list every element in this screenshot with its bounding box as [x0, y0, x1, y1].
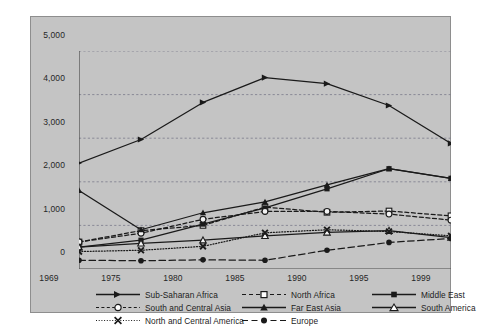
series-sub-saharan-africa [79, 74, 451, 166]
x-tick-label-1999: 1999 [401, 273, 441, 283]
data-point-marker-open-circle [448, 217, 451, 223]
legend-item-north-and-central-america[interactable]: North and Central America [95, 315, 244, 326]
legend-key-dashed-open-square-icon [241, 289, 287, 300]
data-point-marker-open-circle [324, 209, 330, 215]
x-tick-label-1980: 1980 [153, 273, 193, 283]
legend-label: Europe [291, 316, 318, 326]
legend-label: South America [421, 303, 476, 313]
data-point-marker-filled-circle [262, 257, 268, 263]
legend-label: Far East Asia [291, 303, 341, 313]
legend-key-solid-open-triangle-icon [371, 302, 417, 313]
series-south-and-central-asia [79, 209, 451, 245]
y-tick-label-3000: 3,000 [31, 117, 65, 127]
data-point-marker-triangle-right [200, 99, 206, 105]
data-point-marker-filled-circle [324, 247, 330, 253]
series-europe [79, 236, 451, 264]
series-line [79, 78, 451, 163]
legend-label: South and Central Asia [145, 303, 231, 313]
data-point-marker-filled-circle [200, 257, 206, 263]
legend-item-sub-saharan-africa[interactable]: Sub-Saharan Africa [95, 289, 218, 300]
data-point-marker-triangle-right [386, 102, 392, 108]
legend-key-solid-filled-triangle-icon [241, 302, 287, 313]
line-chart-svg [79, 51, 451, 269]
legend-item-north-africa[interactable]: North Africa [241, 289, 335, 300]
x-tick-label-1969: 1969 [29, 273, 69, 283]
chart-figure-panel: 5,000 4,000 3,000 2,000 1,000 0 1969 197… [30, 16, 451, 313]
legend-label: Middle East [421, 290, 465, 300]
plot-area [79, 51, 451, 269]
legend-item-far-east-asia[interactable]: Far East Asia [241, 302, 341, 313]
x-tick-label-1985: 1985 [215, 273, 255, 283]
legend-key-dotted-cross-x-icon [95, 315, 141, 326]
x-tick-label-1995: 1995 [339, 273, 379, 283]
series-south-america [79, 227, 451, 250]
legend-label: Sub-Saharan Africa [145, 290, 218, 300]
y-tick-label-4000: 4,000 [31, 73, 65, 83]
y-tick-label-0: 0 [31, 247, 65, 257]
legend-key-long-dashed-filled-circle-icon [241, 315, 287, 326]
data-point-marker-filled-circle [386, 240, 392, 246]
legend-key-solid-filled-square-icon [371, 289, 417, 300]
series-line [79, 238, 451, 260]
chart-page: 5,000 4,000 3,000 2,000 1,000 0 1969 197… [0, 0, 482, 330]
x-tick-label-1990: 1990 [277, 273, 317, 283]
legend-item-south-america[interactable]: South America [371, 302, 476, 313]
series-far-east-asia [79, 166, 451, 233]
legend-item-middle-east[interactable]: Middle East [371, 289, 465, 300]
chart-legend: Sub-Saharan Africa South and Central Asi… [79, 289, 451, 327]
data-point-marker-filled-circle [79, 257, 82, 263]
data-point-marker-filled-circle [138, 258, 144, 264]
data-point-marker-open-circle [200, 216, 206, 222]
legend-item-south-and-central-asia[interactable]: South and Central Asia [95, 302, 231, 313]
data-point-marker-triangle-right [448, 140, 451, 146]
data-point-marker-open-circle [386, 211, 392, 217]
y-tick-label-5000: 5,000 [31, 30, 65, 40]
legend-item-europe[interactable]: Europe [241, 315, 318, 326]
data-point-marker-triangle-right [138, 136, 144, 142]
data-point-marker-open-circle [262, 209, 268, 215]
x-tick-label-1975: 1975 [91, 273, 131, 283]
data-point-marker-triangle-right [262, 74, 268, 80]
legend-key-dashed-open-circle-icon [95, 302, 141, 313]
data-point-marker-triangle-right [324, 81, 330, 87]
legend-key-solid-triangle-right-icon [95, 289, 141, 300]
y-tick-label-1000: 1,000 [31, 204, 65, 214]
y-tick-label-2000: 2,000 [31, 160, 65, 170]
legend-label: North Africa [291, 290, 335, 300]
legend-label: North and Central America [145, 316, 244, 326]
